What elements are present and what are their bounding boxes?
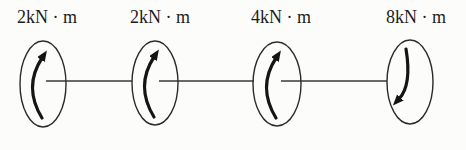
disc-group: 4kN · m [251,7,311,126]
torque-label: 2kN · m [17,7,77,27]
torque-diagram: 2kN · m2kN · m4kN · m8kN · m [0,0,466,150]
torque-label: 4kN · m [251,7,311,27]
disc-groups: 2kN · m2kN · m4kN · m8kN · m [17,7,446,127]
disc-ellipse [132,41,178,125]
disc-group: 2kN · m [17,7,77,127]
disc-ellipse [387,40,433,124]
disc-ellipse [253,42,301,126]
torque-arrow-up-icon [33,58,43,118]
torque-arrow-up-icon [267,58,277,118]
diagram-svg: 2kN · m2kN · m4kN · m8kN · m [0,0,466,150]
torque-label: 2kN · m [130,7,190,27]
disc-group: 8kN · m [386,7,446,124]
torque-arrow-up-icon [145,57,155,117]
disc-ellipse [20,41,66,127]
torque-label: 8kN · m [386,7,446,27]
disc-group: 2kN · m [130,7,190,125]
torque-arrow-down-icon [399,49,408,99]
